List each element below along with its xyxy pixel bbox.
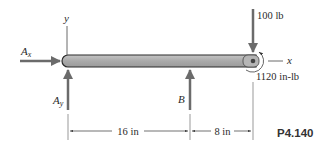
dimension-lines: 16 in 8 in — [68, 82, 253, 140]
reaction-ax-arrow: Ax — [20, 45, 60, 61]
reaction-ay-label: Ay — [52, 94, 64, 108]
applied-force-arrow: 100 lb — [253, 9, 284, 52]
pin-joint — [243, 55, 259, 67]
dimension-16in-label: 16 in — [117, 126, 139, 137]
problem-number: P4.140 — [277, 127, 313, 139]
beam-free-body-diagram: y x Ax Ay B 100 lb 1120 in-lb — [0, 0, 331, 151]
reaction-ay-arrow: Ay — [52, 70, 68, 110]
x-axis: x — [268, 54, 292, 66]
applied-force-label: 100 lb — [257, 10, 284, 21]
reaction-b-label: B — [178, 93, 185, 105]
beam — [62, 55, 256, 67]
x-axis-label: x — [286, 54, 292, 66]
reaction-b-arrow: B — [178, 70, 190, 110]
applied-moment-label: 1120 in-lb — [256, 71, 299, 82]
y-axis: y — [63, 12, 69, 55]
y-axis-label: y — [63, 12, 69, 24]
dimension-8in-label: 8 in — [214, 126, 231, 137]
reaction-ax-label: Ax — [20, 45, 32, 59]
